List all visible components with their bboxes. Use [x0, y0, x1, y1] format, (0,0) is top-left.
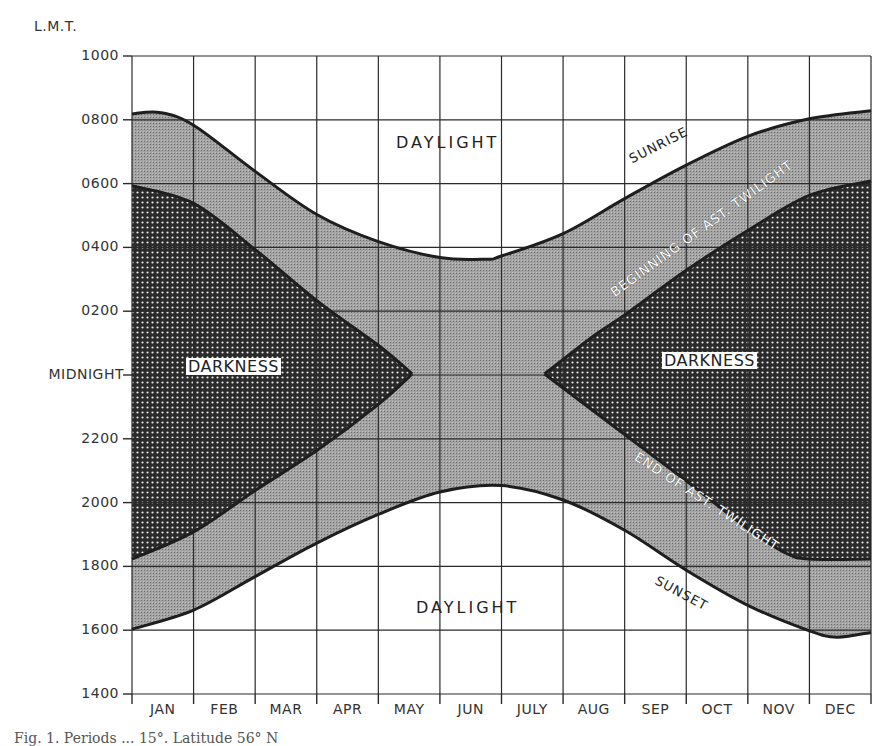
x-tick-label: MAY — [379, 701, 439, 717]
x-tick-label: OCT — [687, 701, 747, 717]
y-tick-label: 0800 — [9, 111, 119, 127]
daylight-top-label: DAYLIGHT — [396, 133, 499, 152]
y-tick-label: 1600 — [9, 621, 119, 637]
y-tick-label: 0200 — [9, 302, 119, 318]
y-tick-label: 1800 — [9, 557, 119, 573]
darkness-left-label: DARKNESS — [186, 358, 281, 375]
x-tick-label: FEB — [194, 701, 254, 717]
x-tick-label: AUG — [564, 701, 624, 717]
darkness-right-label: DARKNESS — [662, 352, 757, 369]
y-axis-unit-label: L.M.T. — [34, 18, 77, 34]
x-tick-label: JULY — [502, 701, 562, 717]
daylight-bottom-label: DAYLIGHT — [416, 598, 519, 617]
y-tick-label: MIDNIGHT — [14, 366, 124, 382]
x-tick-label: NOV — [749, 701, 809, 717]
y-tick-label: 0400 — [9, 238, 119, 254]
x-tick-label: JAN — [133, 701, 193, 717]
y-tick-label: 1000 — [9, 47, 119, 63]
y-tick-label: 1400 — [9, 685, 119, 701]
x-tick-label: APR — [318, 701, 378, 717]
x-tick-label: JUN — [441, 701, 501, 717]
x-tick-label: DEC — [810, 701, 870, 717]
y-tick-label: 0600 — [9, 175, 119, 191]
x-tick-label: MAR — [256, 701, 316, 717]
figure-caption: Fig. 1. Periods ... 15°. Latitude 56° N — [14, 730, 278, 746]
y-tick-label: 2000 — [9, 494, 119, 510]
x-tick-label: SEP — [625, 701, 685, 717]
y-tick-label: 2200 — [9, 430, 119, 446]
